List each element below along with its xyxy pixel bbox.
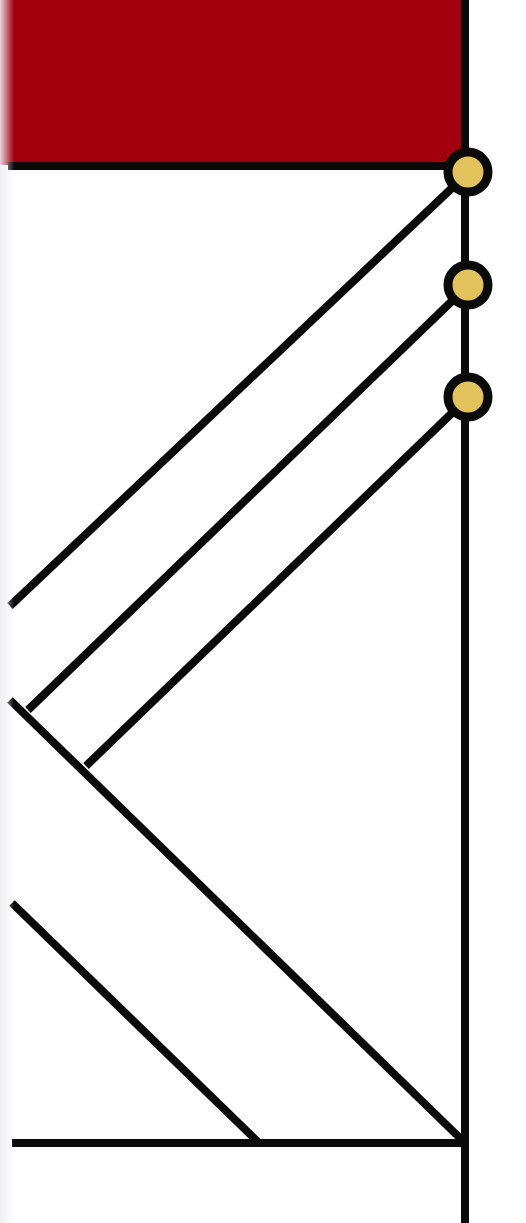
highlight-block (0, 0, 462, 165)
branch-diagonal-1 (10, 188, 452, 606)
branch-diagonal-2 (28, 301, 452, 710)
branch-diagonal-3 (86, 413, 452, 766)
branch-long-descending (10, 700, 464, 1142)
node-1-circle-icon (448, 152, 488, 192)
cladogram-diagram (0, 0, 526, 1223)
branch-lower-descending (12, 903, 258, 1142)
branch-lines (8, 166, 465, 1143)
node-3-circle-icon (448, 377, 488, 417)
node-2-circle-icon (448, 265, 488, 305)
node-markers (448, 152, 488, 417)
